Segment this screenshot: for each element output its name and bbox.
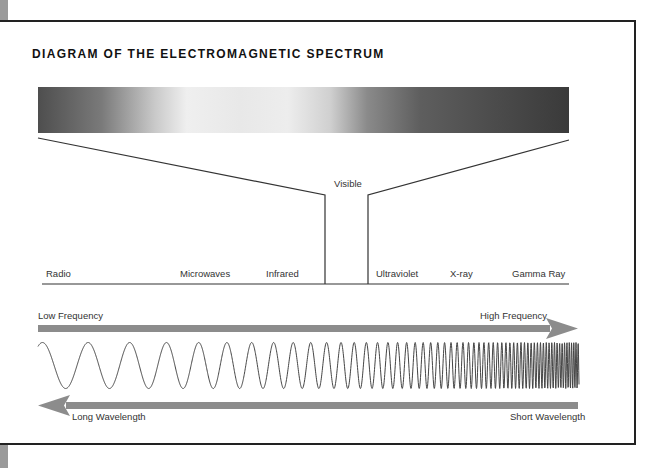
frequency-arrow xyxy=(38,318,578,339)
band-label-gamma-ray: Gamma Ray xyxy=(512,268,565,279)
funnel-right-line xyxy=(368,140,569,284)
short-wavelength-label: Short Wavelength xyxy=(510,411,585,422)
chirp-wave xyxy=(38,343,579,389)
funnel-left-line xyxy=(38,138,325,284)
band-label-microwaves: Microwaves xyxy=(180,268,230,279)
high-frequency-label: High Frequency xyxy=(480,310,547,321)
visible-label: Visible xyxy=(334,178,362,189)
band-label-ultraviolet: Ultraviolet xyxy=(376,268,418,279)
band-label-infrared: Infrared xyxy=(266,268,299,279)
long-wavelength-label: Long Wavelength xyxy=(72,411,146,422)
band-label-radio: Radio xyxy=(46,268,71,279)
band-label-xray: X-ray xyxy=(450,268,473,279)
spectrum-diagram-lines xyxy=(0,0,666,468)
low-frequency-label: Low Frequency xyxy=(38,310,103,321)
